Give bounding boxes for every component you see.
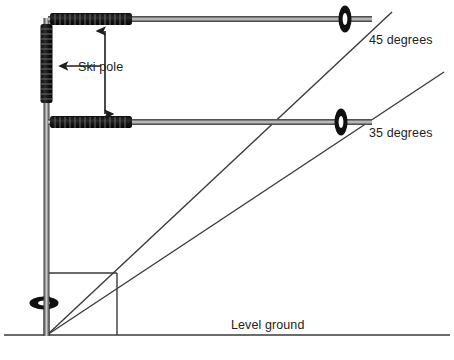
ski-pole-label: Ski pole <box>78 60 123 74</box>
ski-pole-angle-diagram: 45 degrees 35 degrees Level ground Ski p… <box>0 0 454 360</box>
angle-label-45: 45 degrees <box>369 33 433 47</box>
angle-ray-35 <box>47 72 444 335</box>
diagram-canvas <box>0 0 454 360</box>
upper-pole-basket <box>339 6 352 33</box>
lower-ski-pole <box>48 109 372 136</box>
level-ground-label: Level ground <box>231 318 304 332</box>
vertical-ski-pole <box>30 18 59 336</box>
angle-label-35: 35 degrees <box>369 126 433 140</box>
upper-ski-pole <box>48 6 372 33</box>
lower-pole-basket <box>335 109 348 136</box>
vertical-pole-grip <box>41 24 53 103</box>
